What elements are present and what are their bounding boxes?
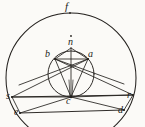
point-label-s: s <box>6 91 10 101</box>
point-label-e: e <box>14 107 18 117</box>
point-label-n: n <box>68 37 73 47</box>
point-marker-d <box>123 109 125 111</box>
point-label-f: f <box>65 1 68 12</box>
point-marker-s <box>11 96 13 98</box>
point-marker-f <box>69 12 71 14</box>
point-label-a: a <box>88 49 93 59</box>
point-label-r: r <box>127 90 131 100</box>
point-label-d: d <box>118 105 123 115</box>
point-label-b: b <box>45 49 50 59</box>
point-marker-e <box>19 112 21 114</box>
point-marker-b <box>54 58 56 60</box>
geometry-figure: f n b a s c r e d <box>0 0 145 127</box>
figure-canvas <box>0 0 145 127</box>
point-marker-r <box>132 94 134 96</box>
paper-background <box>0 0 145 127</box>
point-label-c: c <box>66 96 70 106</box>
